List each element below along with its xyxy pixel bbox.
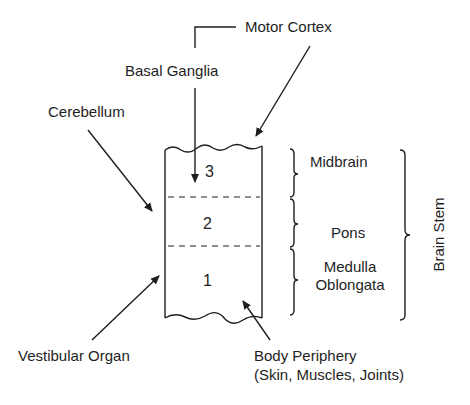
label-basal-ganglia: Basal Ganglia	[125, 62, 218, 79]
label-midbrain: Midbrain	[310, 153, 368, 170]
column-bottom-wavy-edge	[165, 313, 262, 324]
label-motor-cortex: Motor Cortex	[245, 18, 332, 35]
label-cerebellum: Cerebellum	[48, 103, 125, 120]
label-body-periphery-detail: (Skin, Muscles, Joints)	[254, 366, 404, 383]
label-pons: Pons	[331, 224, 365, 241]
level-1-number: 1	[203, 272, 212, 290]
label-vestibular-organ: Vestibular Organ	[18, 347, 130, 364]
column-top-wavy-edge	[165, 145, 262, 153]
level-2-number: 2	[203, 215, 212, 233]
label-medulla: Medulla	[310, 258, 390, 275]
label-oblongata: Oblongata	[300, 276, 400, 293]
label-brain-stem: Brain Stem	[430, 195, 447, 275]
diagram-lines	[0, 0, 470, 405]
label-body-periphery: Body Periphery	[254, 347, 357, 364]
level-3-number: 3	[205, 163, 214, 181]
